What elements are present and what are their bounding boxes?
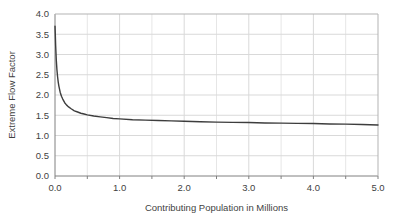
y-tick-label: 0.5 [36,150,49,161]
y-tick-label: 2.0 [36,89,49,100]
x-tick-label: 1.0 [113,182,126,193]
x-tick-label: 5.0 [371,182,384,193]
y-tick-label: 0.0 [36,170,49,181]
y-tick-label: 3.5 [36,29,49,40]
chart-container: 0.00.51.01.52.02.53.03.54.0 0.01.02.03.0… [0,0,395,218]
y-tick-label: 1.5 [36,110,49,121]
x-tick-label: 2.0 [178,182,191,193]
extreme-flow-factor-line-chart: 0.00.51.01.52.02.53.03.54.0 0.01.02.03.0… [0,0,395,218]
y-tick-label: 4.0 [36,8,49,19]
y-tick-label: 1.0 [36,130,49,141]
x-tick-label: 0.0 [48,182,61,193]
y-tick-label: 3.0 [36,49,49,60]
x-tick-label: 3.0 [242,182,255,193]
x-tick-label: 4.0 [307,182,320,193]
x-axis-title: Contributing Population in Millions [145,202,288,213]
y-axis-title: Extreme Flow Factor [6,51,17,139]
y-axis-tick-labels: 0.00.51.01.52.02.53.03.54.0 [36,8,49,181]
y-tick-label: 2.5 [36,69,49,80]
